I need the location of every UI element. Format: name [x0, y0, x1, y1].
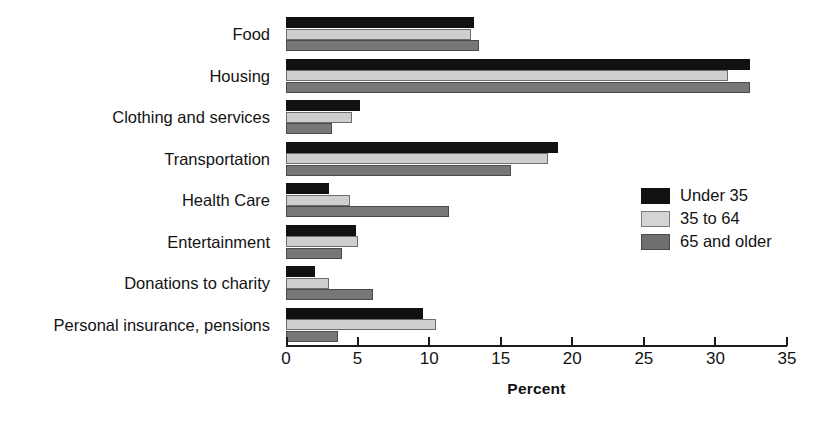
bar [286, 248, 342, 259]
bar [286, 319, 436, 330]
bar [286, 236, 358, 247]
bar [286, 266, 315, 277]
bar-group [286, 100, 787, 134]
legend-item: 35 to 64 [641, 207, 816, 230]
bar [286, 142, 558, 153]
bar [286, 289, 373, 300]
axis-tick-label: 20 [563, 350, 582, 367]
plot-area [286, 15, 787, 345]
category-axis: FoodHousingClothing and servicesTranspor… [0, 15, 278, 345]
bar [286, 59, 750, 70]
bar-chart: FoodHousingClothing and servicesTranspor… [0, 0, 821, 430]
bar-group [286, 266, 787, 300]
value-axis-title: Percent [286, 380, 787, 398]
legend-swatch-icon [641, 188, 670, 204]
axis-tick-label: 35 [778, 350, 797, 367]
legend-swatch-icon [641, 234, 670, 250]
bar-group [286, 59, 787, 93]
bar [286, 29, 471, 40]
axis-tick [643, 337, 645, 346]
bar [286, 17, 474, 28]
legend-swatch-icon [641, 211, 670, 227]
axis-tick [357, 337, 359, 346]
bar-group [286, 308, 787, 342]
category-label: Transportation [164, 151, 270, 168]
category-label: Clothing and services [112, 109, 270, 126]
axis-tick-label: 5 [353, 350, 362, 367]
bar [286, 206, 449, 217]
axis-tick [500, 337, 502, 346]
axis-tick-label: 0 [281, 350, 290, 367]
bar [286, 195, 350, 206]
axis-tick [428, 337, 430, 346]
bar [286, 308, 423, 319]
bar [286, 331, 338, 342]
legend-label: 35 to 64 [680, 210, 740, 227]
bar [286, 82, 750, 93]
category-label: Entertainment [167, 234, 270, 251]
legend-item: 65 and older [641, 230, 816, 253]
bar-group [286, 142, 787, 176]
value-axis-line [286, 345, 787, 347]
bar [286, 112, 352, 123]
axis-tick-label: 10 [420, 350, 439, 367]
axis-tick [571, 337, 573, 346]
bar [286, 100, 360, 111]
category-label: Food [232, 26, 270, 43]
legend-label: Under 35 [680, 187, 748, 204]
axis-tick-label: 25 [634, 350, 653, 367]
chart-legend: Under 3535 to 6465 and older [641, 184, 816, 253]
axis-tick [786, 337, 788, 346]
bar [286, 183, 329, 194]
axis-tick [714, 337, 716, 346]
bar [286, 70, 728, 81]
axis-tick-label: 30 [706, 350, 725, 367]
bar [286, 165, 511, 176]
bar [286, 225, 356, 236]
bar-group [286, 17, 787, 51]
bar [286, 40, 479, 51]
category-label: Health Care [182, 192, 270, 209]
category-label: Donations to charity [124, 275, 270, 292]
axis-tick-label: 15 [491, 350, 510, 367]
category-label: Personal insurance, pensions [54, 317, 270, 334]
bar [286, 123, 332, 134]
category-label: Housing [209, 68, 270, 85]
legend-label: 65 and older [680, 233, 772, 250]
bar [286, 278, 329, 289]
bar [286, 153, 548, 164]
legend-item: Under 35 [641, 184, 816, 207]
